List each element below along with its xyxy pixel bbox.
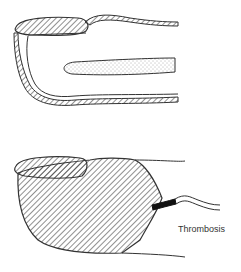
nail xyxy=(15,17,88,35)
bottom-panel xyxy=(15,157,220,257)
top-panel xyxy=(14,15,178,105)
bone xyxy=(64,58,175,75)
thrombosis-label: Thrombosis xyxy=(178,224,225,234)
nail xyxy=(15,157,87,179)
dorsal-skin xyxy=(85,15,178,26)
vessel xyxy=(175,196,220,205)
